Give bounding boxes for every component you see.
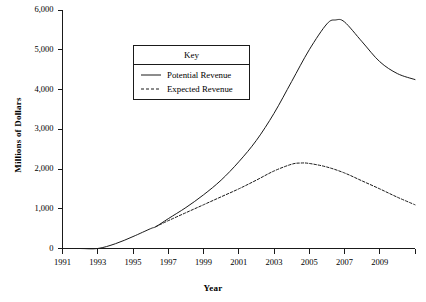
y-tick-label: 6,000 xyxy=(10,5,54,14)
legend-entries: Potential Revenue Expected Revenue xyxy=(134,65,249,96)
legend-item-potential-revenue: Potential Revenue xyxy=(134,68,249,82)
y-tick-label: 0 xyxy=(10,244,54,253)
legend-label-potential-revenue: Potential Revenue xyxy=(167,70,231,80)
y-axis-title: Millions of Dollars xyxy=(13,65,23,205)
legend-title: Key xyxy=(134,46,249,65)
x-tick-label: 1997 xyxy=(148,258,188,267)
x-axis-title: Year xyxy=(0,283,426,293)
legend-item-expected-revenue: Expected Revenue xyxy=(134,82,249,96)
y-axis-ticks xyxy=(58,10,63,249)
x-tick-label: 2003 xyxy=(254,258,294,267)
x-axis-ticks xyxy=(63,249,416,254)
legend-label-expected-revenue: Expected Revenue xyxy=(167,84,233,94)
x-tick-label: 1993 xyxy=(78,258,118,267)
y-tick-label: 1,000 xyxy=(10,204,54,213)
x-tick-label: 2005 xyxy=(289,258,329,267)
x-tick-label: 2001 xyxy=(219,258,259,267)
legend: Key Potential Revenue Expected Revenue xyxy=(133,45,250,100)
series-line-expected-revenue xyxy=(156,163,415,227)
solid-line-icon xyxy=(140,70,162,80)
dashed-line-icon xyxy=(140,84,162,94)
y-tick-label: 5,000 xyxy=(10,45,54,54)
x-tick-label: 2007 xyxy=(325,258,365,267)
x-tick-label: 1991 xyxy=(43,258,83,267)
x-tick-label: 1995 xyxy=(113,258,153,267)
x-tick-label: 1999 xyxy=(184,258,224,267)
revenue-line-chart: 01,0002,0003,0004,0005,0006,000 19911993… xyxy=(0,0,426,302)
x-tick-label: 2009 xyxy=(360,258,400,267)
